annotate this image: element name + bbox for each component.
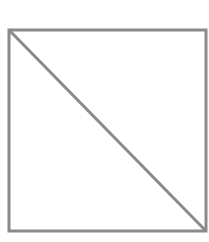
- diagonal-line: [10, 31, 205, 230]
- diagram-canvas: [0, 0, 209, 242]
